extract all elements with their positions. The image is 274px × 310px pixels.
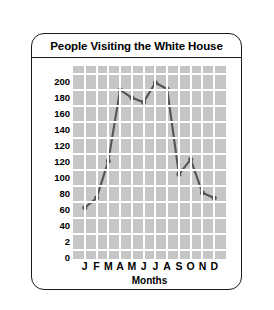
x-axis-tick-label: D <box>210 261 218 272</box>
gridline-vertical <box>84 66 86 259</box>
x-axis-tick-label: A <box>116 261 124 272</box>
gridline-horizontal <box>73 201 226 203</box>
gridline-horizontal <box>73 169 226 171</box>
y-axis-tick-label: 140 <box>38 125 70 135</box>
gridline-vertical <box>190 66 192 259</box>
y-axis-tick-label: 60 <box>38 205 70 215</box>
y-axis-tick-label: 40 <box>38 221 70 231</box>
chart-card: People Visiting the White House Number o… <box>31 33 242 290</box>
y-axis-tick-label: 120 <box>38 141 70 151</box>
gridline-vertical <box>178 66 180 259</box>
x-axis-tick-label: J <box>152 261 158 272</box>
gridline-vertical <box>166 66 168 259</box>
y-axis-tick-label: 2 <box>38 237 70 247</box>
chart-title-bar: People Visiting the White House <box>32 34 241 58</box>
gridline-horizontal <box>73 105 226 107</box>
gridline-horizontal <box>73 89 226 91</box>
y-axis-tick-label: 160 <box>38 109 70 119</box>
gridline-vertical <box>213 66 215 259</box>
gridline-horizontal <box>73 233 226 235</box>
x-axis-tick-label: M <box>104 261 113 272</box>
gridline-horizontal <box>73 121 226 123</box>
y-axis-tick-label: 100 <box>38 173 70 183</box>
gridline-vertical <box>119 66 121 259</box>
x-axis-tick-label: S <box>175 261 182 272</box>
x-axis-tick-label: N <box>199 261 207 272</box>
gridline-horizontal <box>73 249 226 251</box>
plot-area <box>73 66 226 259</box>
x-axis-tick-label: M <box>127 261 136 272</box>
series-line <box>85 83 214 208</box>
y-axis-tick-label: 180 <box>38 93 70 103</box>
x-axis-title: Months <box>73 275 226 286</box>
chart-body: Number of Visitors (in thousands) 200180… <box>32 58 241 291</box>
y-axis-tick-label: 120 <box>38 157 70 167</box>
gridline-vertical <box>96 66 98 259</box>
gridline-horizontal <box>73 137 226 139</box>
gridline-horizontal <box>73 153 226 155</box>
y-axis-tick-label: 0 <box>38 253 70 263</box>
gridline-horizontal <box>73 185 226 187</box>
y-axis-tick-label: 200 <box>38 77 70 87</box>
gridline-vertical <box>201 66 203 259</box>
gridline-vertical <box>154 66 156 259</box>
gridline-horizontal <box>73 217 226 219</box>
x-axis-tick-labels: JFMAMJJASOND <box>73 261 226 275</box>
x-axis-tick-label: J <box>141 261 147 272</box>
gridline-vertical <box>143 66 145 259</box>
y-axis-tick-label: 80 <box>38 189 70 199</box>
gridline-vertical <box>107 66 109 259</box>
gridline-vertical <box>131 66 133 259</box>
gridline-horizontal <box>73 73 226 75</box>
x-axis-tick-label: J <box>82 261 88 272</box>
x-axis-tick-label: O <box>187 261 195 272</box>
x-axis-tick-label: A <box>163 261 171 272</box>
page-title: People Visiting the White House <box>50 40 222 52</box>
y-axis-tick-labels: 20018016014012012010080604020 <box>38 74 70 259</box>
x-axis-tick-label: F <box>93 261 99 272</box>
